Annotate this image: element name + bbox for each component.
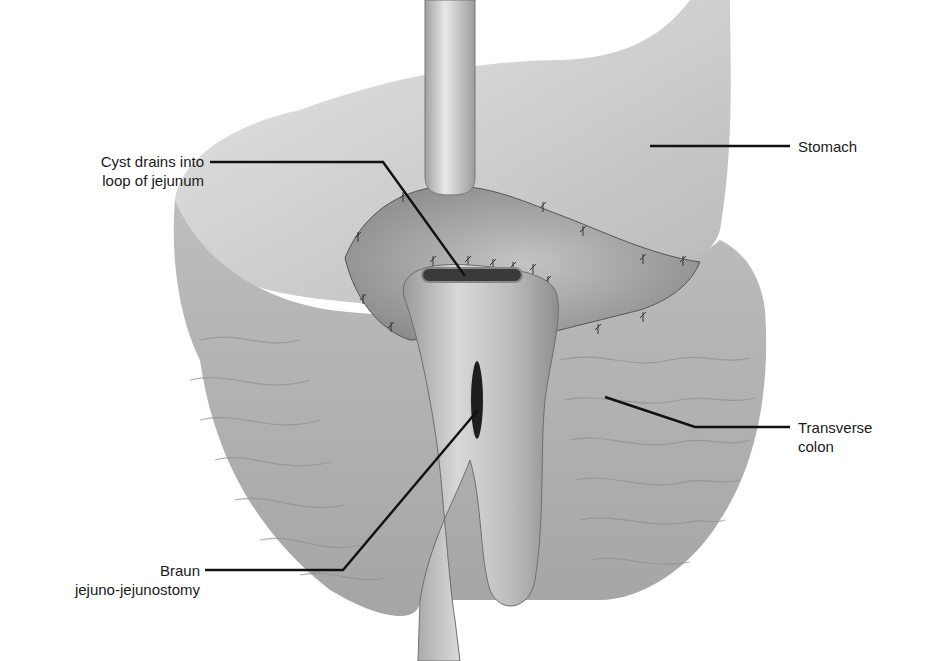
label-transverse-colon: Transverse colon xyxy=(798,418,872,456)
label-cyst-drains-into-jejunum: Cyst drains into loop of jejunum xyxy=(66,152,204,190)
label-braun-jejuno-jejunostomy: Braun jejuno-jejunostomy xyxy=(50,561,200,599)
cyst-jejunostomy-opening xyxy=(422,268,522,282)
braun-anastomosis-opening xyxy=(470,360,484,440)
label-stomach: Stomach xyxy=(798,137,857,156)
retractor xyxy=(425,0,475,195)
